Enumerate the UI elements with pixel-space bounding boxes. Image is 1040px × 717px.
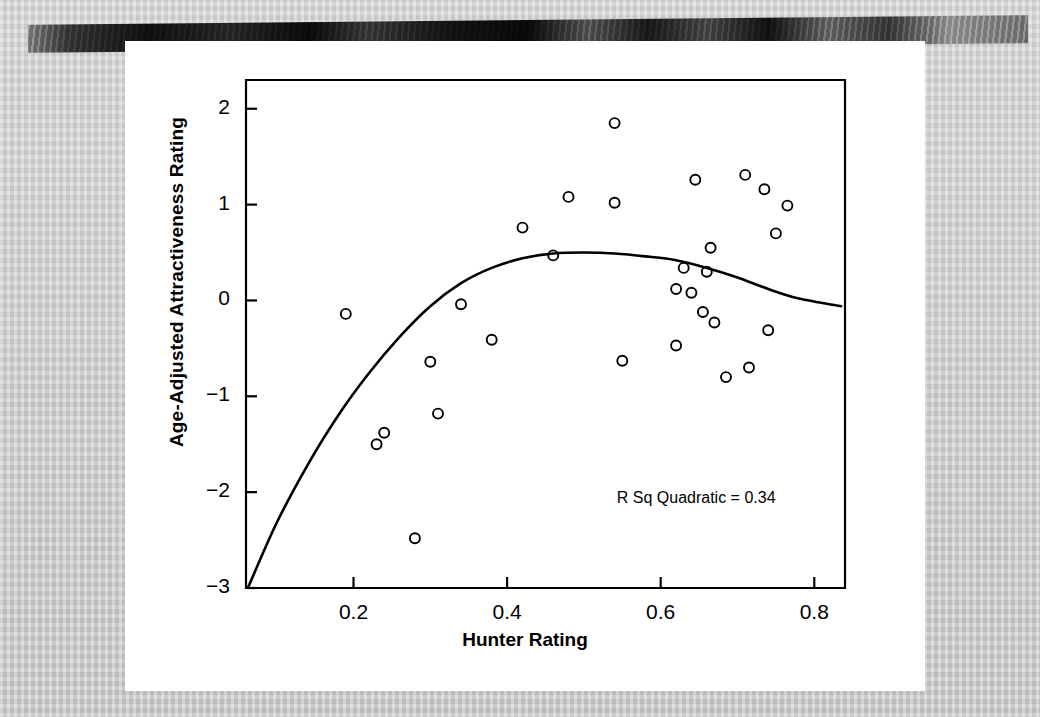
data-points (341, 118, 793, 543)
y-tick-label: −2 (190, 478, 230, 502)
y-axis-title: Age-Adjusted Attractiveness Rating (166, 112, 188, 452)
scanned-page: 210−1−2−3 0.20.40.60.8 Age-Adjusted Attr… (0, 0, 1040, 717)
x-axis-title: Hunter Rating (125, 629, 925, 651)
plot-axes (246, 80, 845, 588)
quadratic-fit-curve (248, 253, 841, 588)
figure-page: 210−1−2−3 0.20.40.60.8 Age-Adjusted Attr… (125, 41, 925, 691)
x-tick-label: 0.4 (477, 600, 537, 624)
y-tick-label: 2 (190, 95, 230, 119)
x-tick-label: 0.6 (631, 600, 691, 624)
plot-canvas (125, 41, 925, 691)
scatter-plot-figure: 210−1−2−3 0.20.40.60.8 Age-Adjusted Attr… (125, 41, 925, 691)
y-tick-label: −3 (190, 574, 230, 598)
x-tick-label: 0.2 (324, 600, 384, 624)
r-squared-annotation: R Sq Quadratic = 0.34 (617, 489, 776, 507)
x-tick-label: 0.8 (784, 600, 844, 624)
y-tick-label: 1 (190, 191, 230, 215)
y-tick-label: 0 (190, 286, 230, 310)
tick-marks (246, 109, 814, 588)
y-tick-label: −1 (190, 382, 230, 406)
